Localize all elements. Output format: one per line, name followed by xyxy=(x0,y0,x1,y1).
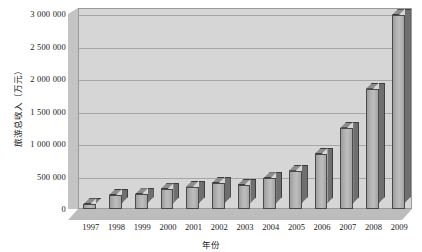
bar-1999 xyxy=(135,194,148,209)
bar-2005 xyxy=(289,171,302,209)
bar-front-face xyxy=(212,183,225,209)
bar-side-face xyxy=(353,122,359,203)
x-axis-tick-labels: 1997199819992000200120022003200420052006… xyxy=(68,222,412,236)
x-axis-title: 年份 xyxy=(0,238,422,250)
plot-area xyxy=(68,8,412,220)
bar-front-face xyxy=(263,178,276,209)
y-tick-label: 2 500 000 xyxy=(30,42,66,52)
bar-side-face xyxy=(405,9,411,203)
y-tick-label: 1 500 000 xyxy=(30,107,66,117)
bar-front-face xyxy=(289,171,302,209)
bar-side-face xyxy=(327,148,333,203)
x-tick-label: 2000 xyxy=(159,222,176,232)
bar-side-face xyxy=(199,181,205,203)
x-tick-label: 2008 xyxy=(365,222,382,232)
bar-2006 xyxy=(315,154,328,209)
x-tick-label: 1997 xyxy=(82,222,99,232)
tourism-revenue-bar-chart: 旅游总收入（万元） 0500 0001 000 0001 500 0002 00… xyxy=(0,0,422,252)
y-tick-label: 500 000 xyxy=(37,172,66,182)
bar-side-face xyxy=(173,183,179,203)
y-axis-tick-labels: 0500 0001 000 0001 500 0002 000 0002 500… xyxy=(8,0,66,252)
bar-front-face xyxy=(109,195,122,209)
plot-floor xyxy=(68,209,412,220)
y-tick-label: 2 000 000 xyxy=(30,74,66,84)
bar-2003 xyxy=(238,185,251,209)
bar-front-face xyxy=(186,187,199,209)
x-tick-label: 2003 xyxy=(237,222,254,232)
x-tick-label: 1999 xyxy=(134,222,151,232)
bar-2002 xyxy=(212,183,225,209)
bar-front-face xyxy=(315,154,328,209)
bar-front-face xyxy=(366,89,379,209)
bar-2007 xyxy=(340,128,353,209)
bar-2004 xyxy=(263,178,276,209)
bar-front-face xyxy=(83,204,96,209)
bar-2001 xyxy=(186,187,199,209)
bar-front-face xyxy=(392,15,405,209)
x-tick-label: 2007 xyxy=(339,222,356,232)
bar-side-face xyxy=(276,172,282,203)
y-tick-label: 3 000 000 xyxy=(30,9,66,19)
bar-front-face xyxy=(135,194,148,209)
bar-2009 xyxy=(392,15,405,209)
bar-1997 xyxy=(83,204,96,209)
y-tick-label: 1 000 000 xyxy=(30,139,66,149)
bar-front-face xyxy=(238,185,251,209)
plot-left-wall xyxy=(68,8,78,209)
bar-1998 xyxy=(109,195,122,209)
x-tick-label: 1998 xyxy=(108,222,125,232)
x-tick-label: 2001 xyxy=(185,222,202,232)
bar-side-face xyxy=(148,188,154,203)
bar-side-face xyxy=(96,198,102,203)
x-tick-label: 2002 xyxy=(211,222,228,232)
bar-side-face xyxy=(225,177,231,203)
bar-front-face xyxy=(161,189,174,209)
bar-front-face xyxy=(340,128,353,209)
bar-side-face xyxy=(122,189,128,203)
y-tick-label: 0 xyxy=(62,204,66,214)
x-tick-label: 2004 xyxy=(262,222,279,232)
x-tick-label: 2005 xyxy=(288,222,305,232)
bar-series xyxy=(78,8,412,209)
bar-2000 xyxy=(161,189,174,209)
x-tick-label: 2009 xyxy=(391,222,408,232)
bar-2008 xyxy=(366,89,379,209)
bar-side-face xyxy=(379,83,385,203)
x-tick-label: 2006 xyxy=(314,222,331,232)
bar-side-face xyxy=(302,165,308,203)
bar-side-face xyxy=(250,179,256,203)
